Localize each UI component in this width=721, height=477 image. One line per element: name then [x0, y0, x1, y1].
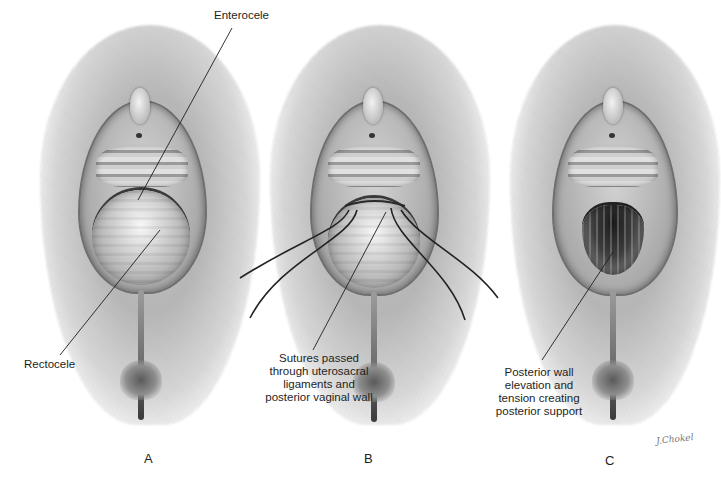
suture-right-outer: [401, 210, 498, 298]
panel-letter-b: B: [364, 451, 373, 466]
rectocele-leader-line: [60, 230, 160, 355]
label-posterior-line-2: elevation and: [479, 379, 599, 392]
label-posterior-support: Posterior wall elevation and tension cre…: [479, 366, 599, 418]
label-posterior-line-3: tension creating: [479, 392, 599, 405]
illustration-figure: Enterocele Rectocele Sutures passed thro…: [0, 0, 721, 477]
label-posterior-line-1: Posterior wall: [479, 366, 599, 379]
label-sutures-line-3: ligaments and: [254, 378, 384, 391]
suture-left-inner: [250, 210, 357, 318]
posterior-support-leader-line: [542, 252, 613, 360]
label-sutures-line-1: Sutures passed: [254, 352, 384, 365]
label-rectocele: Rectocele: [24, 358, 75, 371]
annotation-overlay: [0, 0, 721, 477]
suture-bite-line: [345, 201, 405, 206]
label-enterocele: Enterocele: [214, 9, 269, 22]
panel-letter-a: A: [144, 451, 153, 466]
label-sutures-line-4: posterior vaginal wall: [254, 391, 384, 404]
sutures-leader-line: [313, 212, 386, 350]
label-posterior-line-4: posterior support: [479, 405, 599, 418]
enterocele-leader-line: [138, 28, 232, 200]
label-sutures: Sutures passed through uterosacral ligam…: [254, 352, 384, 404]
suture-right-inner: [391, 208, 465, 320]
label-sutures-line-2: through uterosacral: [254, 365, 384, 378]
panel-letter-c: C: [605, 453, 614, 468]
